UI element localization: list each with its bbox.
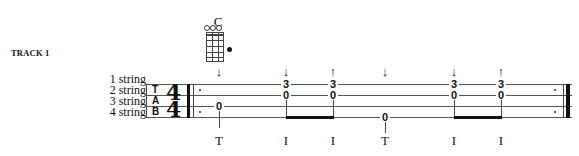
finger-label: I <box>448 133 460 149</box>
down-stroke-icon: ↓ <box>449 65 459 78</box>
up-stroke-icon: ↑ <box>328 65 338 78</box>
staff-line-1 <box>146 84 572 85</box>
repeat-dot <box>199 89 201 91</box>
time-sig-bottom: 4 <box>166 99 181 119</box>
repeat-dot <box>554 89 556 91</box>
fret-number: 3 <box>449 79 459 89</box>
finger-label: T <box>379 133 391 149</box>
repeat-end-thin-bar <box>563 84 564 118</box>
note-stem <box>219 110 220 128</box>
staff-line-3 <box>146 106 572 107</box>
fret-number: 0 <box>214 101 224 111</box>
fret-number: 3 <box>328 79 338 89</box>
eighth-beam <box>286 116 334 119</box>
tab-clef-b: B <box>152 107 159 117</box>
repeat-end-thick-bar <box>566 84 570 118</box>
fret-number: 0 <box>380 112 390 122</box>
staff-line-2 <box>146 95 572 96</box>
fret-number: 0 <box>281 90 291 100</box>
staff-start-barline <box>146 84 147 118</box>
finger-label: T <box>213 133 225 149</box>
staff-line-4 <box>146 117 572 118</box>
repeat-start-thin-bar <box>193 84 194 118</box>
repeat-start-thick-bar <box>187 84 190 118</box>
finger-label: I <box>327 133 339 149</box>
fret-number: 3 <box>281 79 291 89</box>
eighth-beam <box>454 116 502 119</box>
tab-clef-t: T <box>152 85 158 95</box>
finger-label: I <box>495 133 507 149</box>
fret-number: 0 <box>496 90 506 100</box>
down-stroke-icon: ↓ <box>380 65 390 78</box>
repeat-dot <box>554 111 556 113</box>
finger-label: I <box>280 133 292 149</box>
finger-dot-icon <box>227 47 232 52</box>
string-label-4: 4 string <box>76 107 146 118</box>
up-stroke-icon: ↑ <box>496 65 506 78</box>
open-string-icon <box>216 25 222 31</box>
track-label: TRACK 1 <box>11 48 49 58</box>
repeat-dot <box>199 111 201 113</box>
down-stroke-icon: ↓ <box>214 65 224 78</box>
chord-grid <box>206 32 224 62</box>
fret-number: 0 <box>449 90 459 100</box>
fret-number: 0 <box>328 90 338 100</box>
tab-clef-a: A <box>152 96 159 106</box>
fret-number: 3 <box>496 79 506 89</box>
down-stroke-icon: ↓ <box>281 65 291 78</box>
